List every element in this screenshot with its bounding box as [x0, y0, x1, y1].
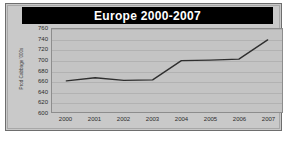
x-axis-tick-label: 2001	[88, 116, 101, 123]
y-axis-tick-label: 760	[38, 25, 48, 31]
y-axis-tick-label: 620	[38, 99, 48, 105]
y-axis-tick-label: 740	[38, 36, 48, 42]
y-axis-tick-label: 720	[38, 46, 48, 52]
y-axis-tick-label: 600	[38, 110, 48, 116]
chart-title: Europe 2000-2007	[94, 9, 201, 23]
y-axis-tick-label: 640	[38, 89, 48, 95]
x-axis-tick-label: 2004	[175, 116, 188, 123]
line-series-path	[66, 40, 267, 81]
chart-title-bar: Europe 2000-2007	[22, 7, 273, 24]
chart-screenshot: Europe 2000-2007 Prod Cabbage '000s 7607…	[0, 0, 293, 142]
x-axis-tick-label: 2002	[117, 116, 130, 123]
y-axis-tick-label: 700	[38, 57, 48, 63]
x-axis-tick-label: 2005	[204, 116, 217, 123]
chart-card: Europe 2000-2007 Prod Cabbage '000s 7607…	[5, 3, 282, 131]
line-series-svg	[52, 29, 282, 112]
x-axis-tick-label: 2006	[233, 116, 246, 123]
x-axis-tick-label: 2003	[146, 116, 159, 123]
y-axis-tick-labels: 760740720700680660640620600	[30, 28, 50, 113]
x-axis-tick-label: 2007	[262, 116, 275, 123]
x-axis-tick-labels: 20002001200220032004200520062007	[51, 116, 283, 126]
y-axis-tick-label: 660	[38, 78, 48, 84]
x-axis-tick-label: 2000	[59, 116, 72, 123]
y-axis-tick-label: 680	[38, 68, 48, 74]
plot-area	[51, 28, 283, 113]
y-axis-title: Prod Cabbage '000s	[19, 41, 24, 97]
